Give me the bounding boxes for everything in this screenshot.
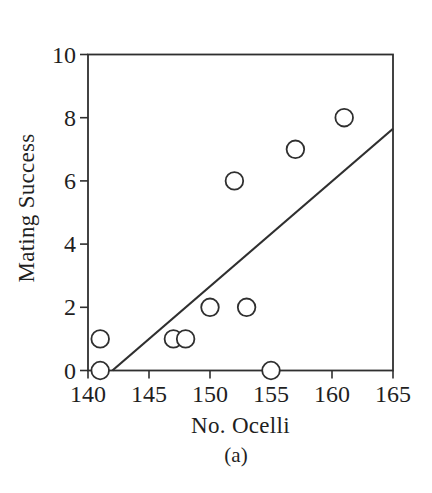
x-axis-label: No. Ocelli xyxy=(88,413,393,439)
data-point-circle xyxy=(201,299,219,317)
data-point-circle xyxy=(335,109,353,127)
x-tick-label: 160 xyxy=(314,381,350,407)
x-tick-label: 150 xyxy=(192,381,228,407)
x-tick-label: 155 xyxy=(253,381,289,407)
y-tick-label: 2 xyxy=(64,294,76,320)
data-point-circle xyxy=(91,330,109,348)
data-point-circle xyxy=(177,330,195,348)
y-tick-label: 6 xyxy=(64,168,76,194)
data-point-circle xyxy=(91,362,109,380)
subfigure-caption: (a) xyxy=(88,443,384,468)
y-tick-label: 10 xyxy=(52,42,76,68)
trend-line xyxy=(112,129,393,371)
y-tick-label: 0 xyxy=(64,358,76,384)
y-tick-label: 8 xyxy=(64,105,76,131)
x-tick-label: 165 xyxy=(375,381,411,407)
data-point-circle xyxy=(287,141,305,159)
x-tick-label: 145 xyxy=(131,381,167,407)
x-tick-label: 140 xyxy=(70,381,106,407)
data-point-circle xyxy=(226,172,244,190)
plot-border xyxy=(88,55,393,371)
data-point-circle xyxy=(262,362,280,380)
data-point-circle xyxy=(238,299,256,317)
figure-page: Mating Success 1401451501551601650246810… xyxy=(0,0,432,493)
y-tick-label: 4 xyxy=(64,231,76,257)
